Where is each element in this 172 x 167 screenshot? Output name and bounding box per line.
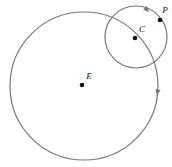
point-p-marker bbox=[158, 18, 163, 23]
point-c-label: C bbox=[139, 24, 146, 34]
geometry-figure: E C P bbox=[0, 0, 172, 167]
geometry-canvas: E C P bbox=[0, 0, 172, 167]
point-e-label: E bbox=[85, 71, 92, 81]
point-e-marker bbox=[80, 83, 85, 88]
point-c-marker bbox=[133, 36, 138, 41]
point-p-label: P bbox=[161, 5, 168, 15]
